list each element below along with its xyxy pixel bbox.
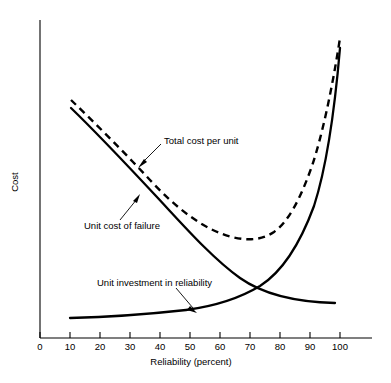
annotation-label: Unit cost of failure	[84, 220, 160, 231]
annotation-total-cost-per-unit: Total cost per unit	[138, 135, 239, 168]
y-axis-title: Cost	[9, 172, 20, 192]
x-tick-label: 80	[275, 341, 286, 352]
annotation-unit-cost-of-failure: Unit cost of failure	[84, 194, 160, 231]
x-tick-label: 30	[125, 341, 136, 352]
x-tick-label: 90	[305, 341, 316, 352]
chart-figure: 0 10 20 30 40 50 60 70 80 90 100 Reliabi…	[0, 0, 391, 383]
x-tick-marks	[40, 332, 340, 338]
annotation-leader-line	[120, 199, 137, 220]
x-tick-label: 60	[215, 341, 226, 352]
x-tick-label: 50	[185, 341, 196, 352]
x-tick-label: 40	[155, 341, 166, 352]
x-tick-label: 0	[37, 341, 42, 352]
annotation-arrow-head	[138, 159, 147, 168]
annotation-arrow-head	[133, 194, 140, 203]
x-tick-labels: 0 10 20 30 40 50 60 70 80 90 100	[37, 341, 348, 352]
x-axis-title: Reliability (percent)	[150, 356, 231, 367]
x-tick-label: 10	[65, 341, 76, 352]
x-tick-label: 70	[245, 341, 256, 352]
annotation-label: Total cost per unit	[164, 135, 239, 146]
x-tick-label: 100	[332, 341, 348, 352]
chart-canvas: 0 10 20 30 40 50 60 70 80 90 100 Reliabi…	[0, 0, 391, 383]
annotation-leader-line	[176, 288, 193, 308]
annotation-label: Unit investment in reliability	[97, 277, 212, 288]
x-tick-label: 20	[95, 341, 106, 352]
